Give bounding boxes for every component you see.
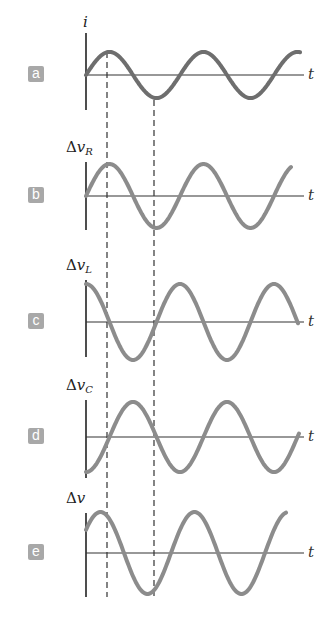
waveform-curves [86,52,300,594]
panel-badge-d: d [28,428,44,444]
y-axis-label-c: ΔvL [66,256,92,275]
variable-symbol: i [83,13,88,31]
y-axis-label-d: ΔvC [66,376,93,395]
time-axis-label-a: t [308,65,314,83]
panel-badge-b: b [28,187,44,203]
time-axis-label-e: t [308,543,314,561]
subscript: L [85,264,92,275]
time-axis-label-d: t [308,427,314,445]
time-axis-label-b: t [308,186,314,204]
delta-symbol: Δ [66,256,77,274]
y-axis-label-b: ΔvR [66,138,93,157]
delta-symbol: Δ [66,489,77,507]
phasor-waveform-diagram [0,0,336,617]
variable-symbol: v [77,489,85,507]
subscript: C [85,384,93,395]
delta-symbol: Δ [66,138,77,156]
y-axis-label-e: Δv [66,489,85,507]
time-marker-dashed-lines [107,52,154,597]
subscript: R [85,146,93,157]
panel-badge-a: a [28,66,44,82]
y-axis-label-a: i [83,13,88,31]
time-axis-label-c: t [308,312,314,330]
delta-symbol: Δ [66,376,77,394]
panel-badge-e: e [28,544,44,560]
panel-badge-c: c [28,313,44,329]
